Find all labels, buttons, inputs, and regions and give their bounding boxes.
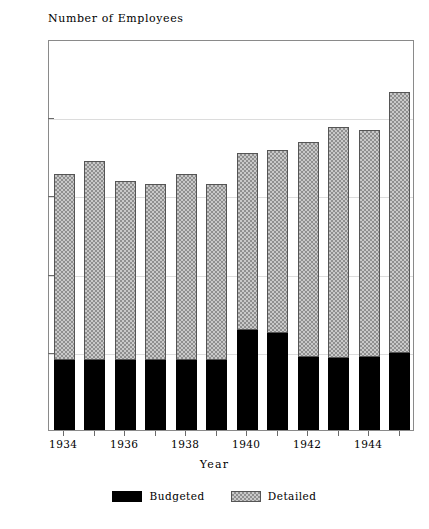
bars-layer: [49, 41, 413, 430]
bar-segment-detailed[interactable]: [267, 150, 288, 333]
y-tick-mark: [48, 275, 54, 276]
legend-item-detailed[interactable]: Detailed: [231, 490, 317, 502]
bar-group[interactable]: [115, 39, 136, 430]
bar-segment-detailed[interactable]: [328, 127, 349, 358]
chart-title: Number of Employees: [48, 12, 184, 25]
bar-segment-budgeted[interactable]: [359, 357, 380, 431]
bar-segment-detailed[interactable]: [84, 161, 105, 360]
bar-segment-detailed[interactable]: [145, 184, 166, 359]
bar-segment-detailed[interactable]: [115, 181, 136, 359]
y-tick-mark: [48, 118, 54, 119]
bar-segment-detailed[interactable]: [176, 174, 197, 360]
x-tick-label: 1942: [293, 438, 321, 450]
x-tick-label: 1938: [171, 438, 199, 450]
x-tick-mark: [94, 431, 95, 436]
y-tick-mark: [48, 353, 54, 354]
bar-segment-detailed[interactable]: [389, 92, 410, 353]
x-tick-mark: [338, 431, 339, 436]
bar-segment-detailed[interactable]: [359, 130, 380, 357]
legend-label-detailed: Detailed: [268, 490, 317, 502]
bar-group[interactable]: [298, 39, 319, 430]
bar-segment-budgeted[interactable]: [389, 353, 410, 430]
bar-group[interactable]: [84, 39, 105, 430]
bar-group[interactable]: [237, 39, 258, 430]
bar-segment-detailed[interactable]: [298, 142, 319, 356]
x-tick-mark: [277, 431, 278, 436]
bar-segment-detailed[interactable]: [237, 153, 258, 330]
x-tick-mark: [368, 431, 369, 436]
bar-segment-budgeted[interactable]: [267, 333, 288, 430]
bar-group[interactable]: [206, 39, 227, 430]
bar-group[interactable]: [267, 39, 288, 430]
bar-group[interactable]: [54, 39, 75, 430]
x-tick-mark: [155, 431, 156, 436]
bar-segment-budgeted[interactable]: [237, 330, 258, 430]
bar-segment-budgeted[interactable]: [145, 360, 166, 430]
legend-swatch-budgeted-icon: [112, 491, 142, 502]
bar-group[interactable]: [359, 39, 380, 430]
bar-segment-detailed[interactable]: [54, 174, 75, 360]
legend-label-budgeted: Budgeted: [149, 490, 204, 502]
x-tick-mark: [185, 431, 186, 436]
bar-segment-budgeted[interactable]: [54, 360, 75, 430]
bar-segment-budgeted[interactable]: [328, 358, 349, 430]
x-tick-label: 1940: [232, 438, 260, 450]
x-tick-mark: [307, 431, 308, 436]
x-tick-label: 1944: [354, 438, 382, 450]
bar-segment-budgeted[interactable]: [206, 360, 227, 430]
plot-area: [48, 40, 414, 431]
x-tick-mark: [63, 431, 64, 436]
bar-group[interactable]: [176, 39, 197, 430]
x-tick-label: 1934: [49, 438, 77, 450]
bar-segment-detailed[interactable]: [206, 184, 227, 359]
bar-segment-budgeted[interactable]: [298, 357, 319, 431]
x-tick-mark: [124, 431, 125, 436]
legend-item-budgeted[interactable]: Budgeted: [112, 490, 204, 502]
x-tick-label: 1936: [110, 438, 138, 450]
bar-group[interactable]: [145, 39, 166, 430]
bar-segment-budgeted[interactable]: [176, 360, 197, 430]
y-tick-mark: [48, 196, 54, 197]
x-tick-mark: [216, 431, 217, 436]
x-tick-mark: [399, 431, 400, 436]
bar-segment-budgeted[interactable]: [115, 360, 136, 430]
x-tick-mark: [246, 431, 247, 436]
chart-root: Number of Employees 050100150200250 1934…: [0, 0, 429, 529]
legend-swatch-detailed-icon: [231, 491, 261, 502]
bar-segment-budgeted[interactable]: [84, 360, 105, 430]
bar-group[interactable]: [389, 39, 410, 430]
x-axis-title: Year: [0, 458, 429, 471]
chart-legend: Budgeted Detailed: [0, 490, 429, 502]
bar-group[interactable]: [328, 39, 349, 430]
